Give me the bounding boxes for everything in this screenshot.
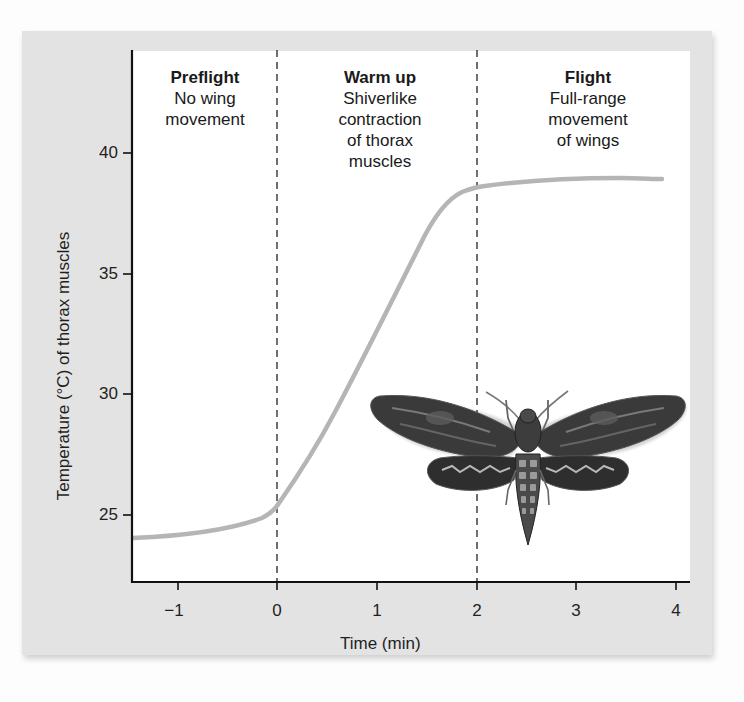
- y-tick-label-35: 35: [78, 264, 118, 284]
- y-axis-ticks: [123, 153, 132, 515]
- x-axis-title: Time (min): [340, 634, 421, 654]
- phase-preflight-desc: No wing movement: [145, 88, 265, 130]
- y-axis-title: Temperature (°C) of thorax muscles: [54, 232, 74, 501]
- phase-warmup-desc: Shiverlike contraction of thorax muscles: [310, 88, 450, 172]
- x-tick-label-3: 3: [556, 601, 596, 621]
- phase-warmup-title: Warm up: [310, 67, 450, 88]
- phase-flight-desc: Full-range movement of wings: [528, 88, 648, 151]
- y-tick-label-30: 30: [78, 384, 118, 404]
- phase-warmup: Warm up Shiverlike contraction of thorax…: [310, 67, 450, 172]
- x-tick-label-0: 0: [257, 601, 297, 621]
- moth-illustration: [371, 391, 687, 545]
- x-axis-ticks: [178, 582, 676, 590]
- x-tick-label-1: 1: [357, 601, 397, 621]
- y-tick-label-25: 25: [78, 505, 118, 525]
- phase-flight: Flight Full-range movement of wings: [528, 67, 648, 151]
- y-tick-label-40: 40: [78, 143, 118, 163]
- x-tick-label-neg1: −1: [154, 601, 194, 621]
- phase-flight-title: Flight: [528, 67, 648, 88]
- phase-preflight: Preflight No wing movement: [145, 67, 265, 130]
- phase-preflight-title: Preflight: [145, 67, 265, 88]
- x-tick-label-4: 4: [656, 601, 696, 621]
- x-tick-label-2: 2: [457, 601, 497, 621]
